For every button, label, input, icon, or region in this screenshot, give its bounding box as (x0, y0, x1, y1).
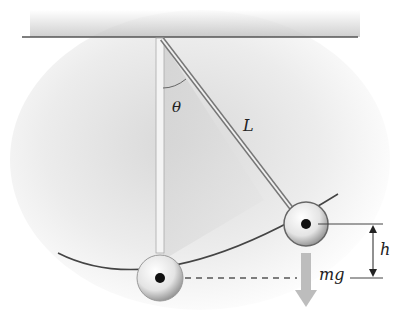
pendulum-diagram: θ L h mg (0, 0, 417, 333)
ceiling-shading (30, 10, 360, 37)
weight-arrow-shaft (301, 253, 311, 291)
height-label: h (380, 240, 390, 259)
bob-displaced-center (301, 219, 311, 229)
angle-label: θ (172, 98, 181, 116)
weight-arrow-head (295, 290, 317, 307)
bob-bottom-center (155, 273, 165, 283)
weight-label: mg (319, 265, 344, 284)
diagram-graphic (0, 0, 417, 333)
vertical-rod (156, 38, 164, 253)
length-label: L (243, 116, 254, 135)
h-arrow-down (369, 269, 377, 277)
